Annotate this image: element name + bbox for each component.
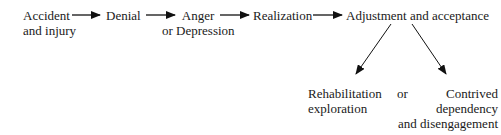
node-realization: Realization: [253, 8, 312, 23]
node-denial-line1: Denial: [106, 8, 141, 23]
node-denial: Denial: [106, 8, 141, 23]
node-contrived-line2: dependency: [380, 101, 498, 116]
arrow-adjustment-rehabilitation: [356, 24, 391, 74]
node-accident: Accident and injury: [23, 8, 76, 38]
arrow-adjustment-contrived: [412, 24, 446, 74]
node-anger-line2: or Depression: [162, 23, 234, 38]
node-rehabilitation-line2: exploration: [308, 101, 382, 116]
node-anger: Anger or Depression: [162, 8, 234, 38]
node-rehabilitation: Rehabilitation exploration: [308, 86, 382, 116]
node-contrived-line1: Contrived: [380, 86, 498, 101]
node-adjustment: Adjustment and acceptance: [346, 8, 489, 23]
node-contrived-line3: and disengagement: [380, 116, 498, 131]
node-anger-line1: Anger: [162, 8, 234, 23]
node-realization-line1: Realization: [253, 8, 312, 23]
node-rehabilitation-line1: Rehabilitation: [308, 86, 382, 101]
node-accident-line1: Accident: [23, 8, 76, 23]
node-accident-line2: and injury: [23, 23, 76, 38]
node-adjustment-line1: Adjustment and acceptance: [346, 8, 489, 23]
node-contrived: Contrived dependency and disengagement: [380, 86, 498, 131]
